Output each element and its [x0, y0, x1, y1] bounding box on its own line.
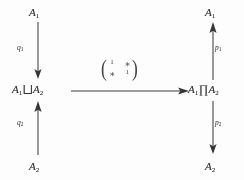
object-bottom-left-base: A [29, 160, 36, 172]
object-middle-right-second-index: 2 [215, 89, 219, 97]
object-top-left: A1 [29, 7, 39, 20]
morphism-matrix-label: ( 1 ∗ ∗ 1 ) [100, 59, 139, 78]
arrow-label-q2: q2 [17, 119, 23, 127]
object-bottom-left-index: 2 [36, 166, 40, 174]
coproduct-operator-icon: ⨆ [22, 83, 33, 95]
object-middle-right-first-base: A [188, 83, 195, 95]
object-top-right: A1 [205, 7, 215, 20]
arrow-label-q2-index: 2 [21, 121, 24, 127]
arrow-p2 [206, 101, 220, 155]
matrix-open-paren: ( [101, 59, 107, 78]
matrix-cell-r0c1: ∗ [124, 60, 130, 69]
object-middle-left-second-index: 2 [40, 89, 44, 97]
matrix-cell-r1c0: ∗ [109, 70, 115, 79]
object-bottom-left: A2 [29, 161, 39, 174]
commutative-diagram-canvas: A1 q1 A1⨆A2 q2 A2 ( 1 [0, 0, 244, 180]
object-top-left-index: 1 [36, 12, 40, 20]
object-middle-left: A1⨆A2 [12, 84, 43, 97]
object-top-right-base: A [205, 6, 212, 18]
object-middle-left-first-base: A [12, 83, 19, 95]
arrow-label-p2: p2 [215, 119, 221, 127]
object-bottom-right: A2 [205, 161, 215, 174]
arrow-q1 [31, 22, 45, 80]
matrix-cell-r1c1: 1 [124, 69, 130, 78]
arrow-center-horizontal [71, 85, 189, 97]
arrow-q2 [31, 101, 45, 155]
matrix-close-paren: ) [132, 59, 138, 78]
arrow-label-p1: p1 [215, 44, 221, 52]
object-bottom-right-base: A [205, 160, 212, 172]
object-top-left-base: A [29, 6, 36, 18]
arrow-label-q1: q1 [17, 44, 23, 52]
arrow-label-p2-index: 2 [219, 121, 222, 127]
arrow-label-q1-index: 1 [21, 46, 24, 52]
matrix-grid: 1 ∗ ∗ 1 [108, 59, 131, 78]
matrix-cell-r0c0: 1 [109, 59, 115, 68]
arrow-label-p1-index: 1 [219, 46, 222, 52]
object-middle-left-second-base: A [33, 83, 40, 95]
object-middle-right: A1∏A2 [188, 84, 219, 97]
product-operator-icon: ∏ [198, 83, 208, 95]
object-top-right-index: 1 [212, 12, 216, 20]
object-bottom-right-index: 2 [212, 166, 216, 174]
